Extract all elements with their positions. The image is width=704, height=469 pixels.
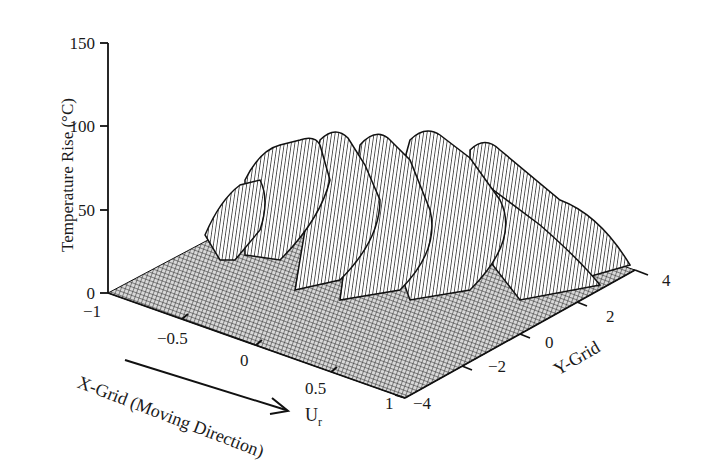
direction-label: Ur	[305, 405, 322, 430]
z-tick-label: 150	[55, 35, 95, 52]
x-tick-label: −1	[83, 303, 101, 320]
z-axis	[100, 43, 108, 293]
x-tick-label: 0.5	[305, 380, 326, 397]
x-tick-label: 1	[385, 395, 394, 412]
z-axis-label: Temperature Rise (°C)	[58, 55, 78, 295]
y-tick-label: 2	[606, 308, 615, 325]
y-tick-label: 0	[545, 334, 554, 351]
x-tick-label: −0.5	[157, 330, 188, 347]
y-tick-label: 4	[662, 272, 671, 289]
y-tick-label: −4	[413, 395, 431, 412]
x-tick-label: 0	[240, 352, 249, 369]
y-tick-label: −2	[488, 358, 506, 375]
